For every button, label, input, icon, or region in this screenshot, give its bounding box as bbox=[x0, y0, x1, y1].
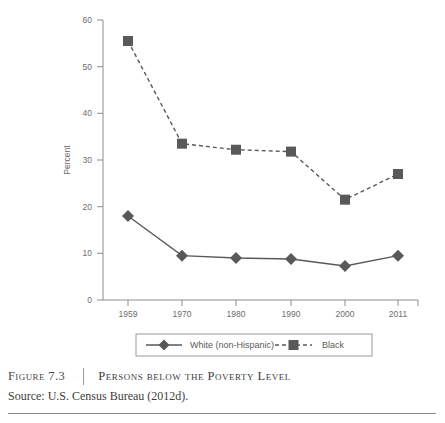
y-tick-label-40: 40 bbox=[83, 108, 93, 118]
figure-number-label: Figure 7.3 bbox=[8, 369, 65, 384]
y-axis-ticks bbox=[97, 20, 103, 300]
x-tick-label-1990: 1990 bbox=[282, 309, 301, 319]
data-point-square-marker bbox=[340, 195, 350, 205]
y-tick-label-0: 0 bbox=[87, 295, 92, 305]
data-point-diamond-marker bbox=[285, 253, 297, 265]
data-point-diamond-marker bbox=[392, 250, 404, 262]
x-tick-label-1980: 1980 bbox=[227, 309, 246, 319]
series-white-non-hispanic bbox=[122, 210, 404, 272]
y-tick-label-50: 50 bbox=[83, 62, 93, 72]
data-point-diamond-marker bbox=[339, 260, 351, 272]
y-tick-label-10: 10 bbox=[83, 248, 93, 258]
data-point-diamond-marker bbox=[176, 250, 188, 262]
x-tick-label-1970: 1970 bbox=[173, 309, 192, 319]
series-line bbox=[128, 216, 398, 266]
figure-source-line: Source: U.S. Census Bureau (2012d). bbox=[8, 389, 188, 404]
legend-white-diamond-marker-icon bbox=[159, 340, 170, 351]
poverty-level-line-chart: 60 50 40 30 20 10 0 Percent 1959 1970 19… bbox=[0, 0, 445, 360]
x-tick-label-1959: 1959 bbox=[119, 309, 138, 319]
y-axis-title: Percent bbox=[62, 145, 72, 175]
figure-chart-area: 60 50 40 30 20 10 0 Percent 1959 1970 19… bbox=[0, 0, 445, 360]
legend-black-square-marker-icon bbox=[289, 340, 299, 350]
data-point-square-marker bbox=[177, 139, 187, 149]
legend-label-black: Black bbox=[322, 340, 345, 350]
figure-caption-row: Figure 7.3 Persons below the Poverty Lev… bbox=[8, 366, 291, 386]
legend-label-white: White (non-Hispanic) bbox=[190, 340, 274, 350]
data-point-diamond-marker bbox=[230, 252, 242, 264]
y-tick-label-60: 60 bbox=[83, 15, 93, 25]
series-black bbox=[123, 36, 403, 205]
series-line bbox=[128, 41, 398, 200]
caption-divider bbox=[83, 368, 84, 385]
x-tick-label-2000: 2000 bbox=[336, 309, 355, 319]
figure-caption-block: Figure 7.3 Persons below the Poverty Lev… bbox=[0, 360, 445, 423]
chart-legend: White (non-Hispanic) Black bbox=[136, 334, 372, 356]
data-point-square-marker bbox=[123, 36, 133, 46]
figure-title: Persons below the Poverty Level bbox=[98, 369, 291, 384]
data-point-square-marker bbox=[393, 169, 403, 179]
y-tick-label-30: 30 bbox=[83, 155, 93, 165]
y-tick-label-20: 20 bbox=[83, 202, 93, 212]
data-point-diamond-marker bbox=[122, 210, 134, 222]
data-point-square-marker bbox=[286, 147, 296, 157]
x-axis-ticks bbox=[128, 300, 418, 306]
x-tick-label-2011: 2011 bbox=[389, 309, 408, 319]
data-point-square-marker bbox=[231, 145, 241, 155]
bottom-horizontal-rule bbox=[8, 413, 436, 414]
series-layer bbox=[122, 36, 404, 272]
